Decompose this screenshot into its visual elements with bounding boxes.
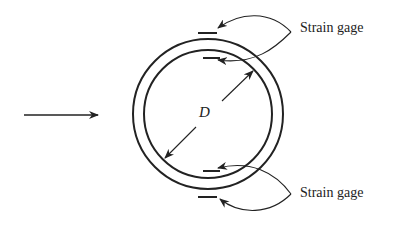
diameter-label: D — [199, 104, 210, 121]
top-strain-gage-label: Strain gage — [300, 20, 363, 36]
bottom-strain-gage-label: Strain gage — [300, 185, 363, 201]
